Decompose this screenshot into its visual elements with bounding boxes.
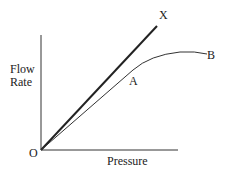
- y-axis-label: Flow Rate: [10, 63, 35, 89]
- actual-curve-ab: [41, 52, 207, 150]
- curve-b-label: B: [207, 49, 215, 62]
- ideal-line-x: [41, 26, 157, 150]
- curve-a-label: A: [129, 75, 138, 88]
- x-axis-label: Pressure: [107, 155, 148, 168]
- line-x-label: X: [159, 9, 168, 22]
- origin-label: O: [29, 147, 38, 160]
